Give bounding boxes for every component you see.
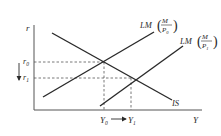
y-axis-label: r (26, 23, 30, 33)
y0-label: Y0 (100, 115, 108, 126)
svg-text:LM: LM (139, 20, 153, 30)
is-label: IS (171, 98, 180, 108)
r1-label: r1 (23, 73, 29, 83)
svg-text:LM: LM (179, 36, 193, 46)
y1-label: Y1 (128, 115, 136, 126)
svg-text:P0: P0 (161, 26, 169, 35)
svg-text:): ) (173, 18, 178, 34)
x-axis-label: Y (193, 115, 199, 125)
svg-text:P1: P1 (201, 42, 209, 51)
svg-text:M: M (161, 17, 169, 25)
svg-text:): ) (213, 34, 218, 50)
is-lm-diagram: r Y r0 r1 Y0 Y1 IS LM ( M P0 ) LM ( M P1… (0, 0, 221, 136)
lm0-curve (43, 32, 154, 97)
lm1-curve (100, 46, 183, 106)
lm0-label: LM ( M P0 ) (139, 17, 178, 35)
lm1-label: LM ( M P1 ) (179, 33, 218, 51)
svg-text:M: M (201, 33, 209, 41)
r0-label: r0 (23, 57, 29, 67)
